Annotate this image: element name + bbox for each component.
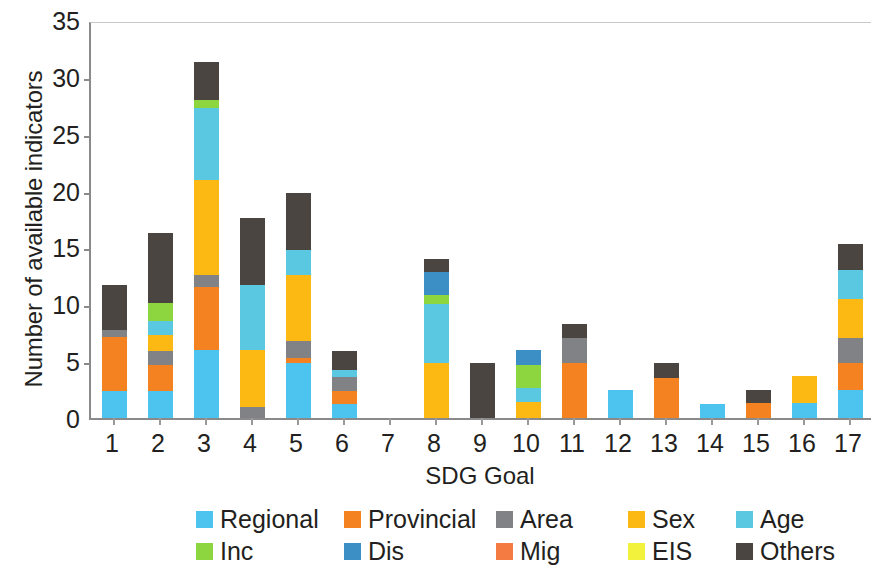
x-tick-label-8: 8 — [409, 428, 459, 458]
bar-segment-age[interactable] — [240, 285, 265, 350]
bar-stack-goal-12[interactable] — [608, 390, 633, 418]
bar-segment-others[interactable] — [286, 193, 311, 250]
bar-segment-age[interactable] — [516, 388, 541, 402]
y-tick-label: 0 — [24, 407, 80, 432]
legend-item-regional[interactable]: Regional — [196, 503, 319, 535]
bar-segment-others[interactable] — [838, 244, 863, 270]
bar-segment-others[interactable] — [332, 351, 357, 370]
bar-segment-sex[interactable] — [424, 363, 449, 418]
bar-segment-others[interactable] — [654, 363, 679, 378]
bar-segment-others[interactable] — [148, 233, 173, 304]
bar-segment-regional[interactable] — [792, 403, 817, 418]
bar-segment-dis[interactable] — [424, 272, 449, 295]
bar-segment-sex[interactable] — [516, 402, 541, 418]
legend-item-provincial[interactable]: Provincial — [344, 503, 476, 535]
bar-segment-age[interactable] — [838, 270, 863, 298]
legend-item-area[interactable]: Area — [496, 503, 573, 535]
bar-segment-age[interactable] — [332, 370, 357, 377]
bar-stack-goal-9[interactable] — [470, 363, 495, 418]
bar-stack-goal-4[interactable] — [240, 218, 265, 418]
bar-segment-regional[interactable] — [700, 404, 725, 418]
bar-stack-goal-11[interactable] — [562, 324, 587, 418]
bar-segment-provincial[interactable] — [332, 391, 357, 405]
legend-item-dis[interactable]: Dis — [344, 535, 404, 567]
x-tick-mark — [297, 418, 299, 425]
bar-segment-regional[interactable] — [608, 390, 633, 418]
bar-segment-area[interactable] — [838, 338, 863, 363]
bar-segment-inc[interactable] — [424, 295, 449, 304]
x-tick-label-4: 4 — [225, 428, 275, 458]
bar-segment-area[interactable] — [332, 377, 357, 391]
x-tick-label-2: 2 — [133, 428, 183, 458]
bar-stack-goal-14[interactable] — [700, 404, 725, 418]
bar-stack-goal-8[interactable] — [424, 259, 449, 418]
bar-segment-regional[interactable] — [332, 404, 357, 418]
bar-segment-inc[interactable] — [516, 365, 541, 389]
bar-segment-others[interactable] — [746, 390, 771, 404]
bar-segment-age[interactable] — [148, 321, 173, 335]
bar-segment-inc[interactable] — [194, 100, 219, 108]
legend-item-mig[interactable]: Mig — [496, 535, 560, 567]
legend-label: Regional — [220, 506, 319, 532]
bar-stack-goal-2[interactable] — [148, 233, 173, 418]
bar-segment-others[interactable] — [562, 324, 587, 339]
bar-segment-provincial[interactable] — [746, 403, 771, 418]
bar-stack-goal-10[interactable] — [516, 350, 541, 418]
bar-segment-provincial[interactable] — [102, 337, 127, 390]
bar-segment-sex[interactable] — [240, 350, 265, 407]
bar-segment-dis[interactable] — [516, 350, 541, 365]
legend-swatch-dis-icon — [344, 543, 361, 560]
legend-label: Mig — [520, 538, 560, 564]
bar-segment-regional[interactable] — [838, 390, 863, 418]
bar-stack-goal-3[interactable] — [194, 62, 219, 418]
bar-segment-area[interactable] — [562, 338, 587, 363]
bar-segment-area[interactable] — [102, 330, 127, 337]
bar-segment-age[interactable] — [424, 304, 449, 363]
x-tick-label-6: 6 — [317, 428, 367, 458]
legend-label: Inc — [220, 538, 253, 564]
legend-swatch-sex-icon — [628, 511, 645, 528]
bar-segment-regional[interactable] — [286, 363, 311, 418]
bar-segment-provincial[interactable] — [194, 287, 219, 350]
bar-stack-goal-1[interactable] — [102, 285, 127, 418]
legend-item-others[interactable]: Others — [736, 535, 835, 567]
bar-stack-goal-5[interactable] — [286, 193, 311, 418]
bar-segment-area[interactable] — [148, 351, 173, 365]
bar-segment-others[interactable] — [102, 285, 127, 330]
bar-segment-regional[interactable] — [148, 391, 173, 418]
bar-segment-regional[interactable] — [102, 391, 127, 418]
bar-segment-regional[interactable] — [194, 350, 219, 418]
bar-segment-sex[interactable] — [838, 299, 863, 339]
bar-stack-goal-16[interactable] — [792, 376, 817, 418]
bar-segment-age[interactable] — [194, 108, 219, 181]
bar-segment-sex[interactable] — [194, 180, 219, 274]
x-tick-label-5: 5 — [271, 428, 321, 458]
bar-segment-others[interactable] — [424, 259, 449, 273]
bar-segment-sex[interactable] — [148, 335, 173, 351]
bar-segment-age[interactable] — [286, 250, 311, 275]
legend-item-eis[interactable]: EIS — [628, 535, 692, 567]
bar-segment-inc[interactable] — [148, 303, 173, 321]
bar-segment-sex[interactable] — [286, 275, 311, 341]
bar-stack-goal-15[interactable] — [746, 390, 771, 418]
bar-segment-others[interactable] — [240, 218, 265, 285]
bar-stack-goal-17[interactable] — [838, 244, 863, 418]
legend-label: Sex — [652, 506, 695, 532]
bar-segment-area[interactable] — [286, 341, 311, 358]
bar-segment-area[interactable] — [240, 407, 265, 418]
bar-segment-provincial[interactable] — [562, 363, 587, 418]
legend-item-sex[interactable]: Sex — [628, 503, 695, 535]
bar-segment-area[interactable] — [194, 275, 219, 288]
legend-item-age[interactable]: Age — [736, 503, 804, 535]
bar-stack-goal-6[interactable] — [332, 351, 357, 418]
bar-segment-provincial[interactable] — [654, 378, 679, 418]
bar-segment-provincial[interactable] — [838, 363, 863, 389]
bar-stack-goal-13[interactable] — [654, 363, 679, 418]
bar-segment-provincial[interactable] — [148, 365, 173, 391]
bar-segment-sex[interactable] — [792, 376, 817, 403]
legend-item-inc[interactable]: Inc — [196, 535, 253, 567]
bar-segment-others[interactable] — [470, 363, 495, 418]
y-tick-mark — [84, 136, 91, 138]
bar-segment-others[interactable] — [194, 62, 219, 100]
legend-swatch-area-icon — [496, 511, 513, 528]
